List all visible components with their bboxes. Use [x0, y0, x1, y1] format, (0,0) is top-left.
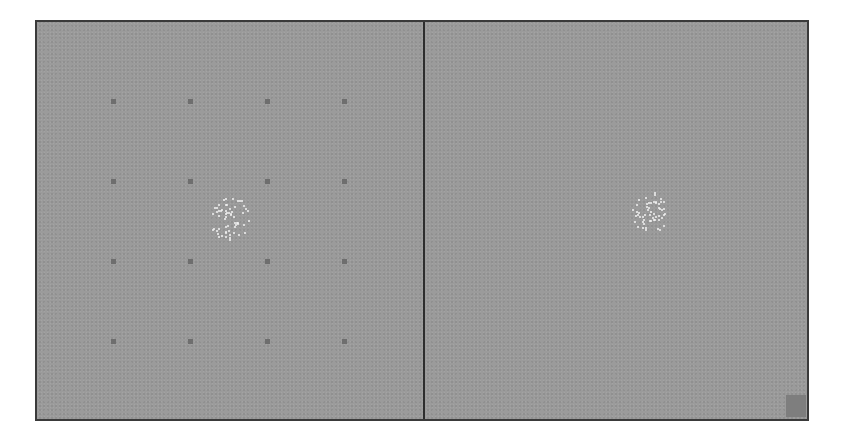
- left-stimulus-panel: [37, 22, 423, 419]
- stimulus-dot: [220, 210, 222, 212]
- stimulus-dot: [654, 194, 656, 196]
- stimulus-dot: [234, 206, 236, 208]
- stimulus-dot: [643, 223, 645, 225]
- stimulus-dot: [216, 207, 218, 209]
- stimulus-dot: [661, 209, 663, 211]
- stimulus-dot: [652, 217, 654, 219]
- stimulus-frame: [35, 20, 809, 421]
- stimulus-dot: [638, 199, 640, 201]
- stimulus-dot: [226, 204, 228, 206]
- grid-marker: [111, 259, 116, 264]
- stimulus-dot: [644, 214, 646, 216]
- grid-marker: [188, 339, 193, 344]
- stimulus-dot: [212, 213, 214, 215]
- corner-cue-square: [786, 395, 806, 417]
- stimulus-dot: [229, 208, 231, 210]
- stimulus-dot: [638, 212, 640, 214]
- stimulus-dot: [238, 234, 240, 236]
- grid-marker: [342, 259, 347, 264]
- stimulus-dot: [660, 198, 662, 200]
- stimulus-dot: [658, 215, 660, 217]
- stimulus-dot: [218, 215, 220, 217]
- stimulus-dot: [639, 216, 641, 218]
- stimulus-dot: [225, 198, 227, 200]
- stimulus-dot: [224, 218, 226, 220]
- stimulus-dot: [658, 203, 660, 205]
- grid-marker: [265, 339, 270, 344]
- stimulus-dot: [242, 212, 244, 214]
- stimulus-dot: [653, 213, 655, 215]
- stimulus-dot: [218, 204, 220, 206]
- stimulus-dot: [663, 214, 665, 216]
- stimulus-dot: [658, 219, 660, 221]
- stimulus-dot: [645, 229, 647, 231]
- stimulus-dot: [223, 199, 225, 201]
- stimulus-dot: [650, 202, 652, 204]
- stimulus-dot: [661, 217, 663, 219]
- right-stimulus-panel: [425, 22, 807, 419]
- grid-marker: [265, 259, 270, 264]
- stimulus-dot: [236, 222, 238, 224]
- stimulus-dot: [663, 208, 665, 210]
- stimulus-dot: [634, 221, 636, 223]
- stimulus-dot: [653, 201, 655, 203]
- stimulus-dot: [657, 228, 659, 230]
- grid-marker: [342, 339, 347, 344]
- stimulus-dot: [654, 219, 656, 221]
- stimulus-dot: [632, 209, 634, 211]
- stimulus-dot: [642, 227, 644, 229]
- grid-marker: [188, 179, 193, 184]
- stimulus-dot: [659, 229, 661, 231]
- grid-marker: [111, 99, 116, 104]
- stimulus-dot: [241, 200, 243, 202]
- stimulus-dot: [243, 224, 245, 226]
- grid-marker: [111, 179, 116, 184]
- stimulus-dot: [239, 200, 241, 202]
- grid-marker: [265, 179, 270, 184]
- stimulus-dot: [225, 236, 227, 238]
- stimulus-dot: [642, 216, 644, 218]
- stimulus-dot: [227, 225, 229, 227]
- stimulus-dot: [663, 201, 665, 203]
- stimulus-dot: [660, 201, 662, 203]
- stimulus-dot: [649, 214, 651, 216]
- stimulus-dot: [244, 232, 246, 234]
- stimulus-dot: [663, 225, 665, 227]
- stimulus-dot: [636, 204, 638, 206]
- stimulus-dot: [233, 216, 235, 218]
- stimulus-dot: [217, 233, 219, 235]
- grid-marker: [188, 99, 193, 104]
- stimulus-dot: [233, 232, 235, 234]
- stimulus-dot: [218, 210, 220, 212]
- stimulus-dot: [229, 234, 231, 236]
- stimulus-dot: [247, 210, 249, 212]
- stimulus-dot: [655, 201, 657, 203]
- stimulus-dot: [243, 205, 245, 207]
- grid-marker: [265, 99, 270, 104]
- stimulus-dot: [645, 197, 647, 199]
- stimulus-dot: [225, 216, 227, 218]
- stimulus-dot: [230, 214, 232, 216]
- stimulus-dot: [248, 220, 250, 222]
- stimulus-dot: [234, 226, 236, 228]
- stimulus-dot: [232, 198, 234, 200]
- stimulus-dot: [650, 211, 652, 213]
- grid-marker: [342, 179, 347, 184]
- stimulus-dot: [218, 236, 220, 238]
- stimulus-dot: [221, 235, 223, 237]
- stimulus-dot: [229, 239, 231, 241]
- stimulus-dot: [225, 232, 227, 234]
- stimulus-dot: [635, 215, 637, 217]
- grid-marker: [111, 339, 116, 344]
- stimulus-dot: [649, 220, 651, 222]
- stimulus-dot: [218, 228, 220, 230]
- grid-marker: [188, 259, 193, 264]
- stimulus-dot: [637, 226, 639, 228]
- grid-marker: [342, 99, 347, 104]
- stimulus-dot: [646, 203, 648, 205]
- stimulus-dot: [228, 230, 230, 232]
- stimulus-dot: [212, 229, 214, 231]
- stimulus-dot: [643, 219, 645, 221]
